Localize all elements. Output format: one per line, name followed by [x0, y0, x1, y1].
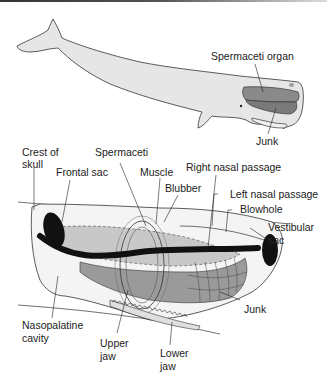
whole-whale-illustration — [17, 19, 303, 134]
whale-body — [17, 19, 303, 129]
label-crest-of-skull-2: skull — [22, 158, 43, 170]
label-nasopalatine-cavity-2: cavity — [22, 332, 49, 344]
label-frontal-sac: Frontal sac — [56, 166, 108, 178]
label-crest-of-skull-1: Crest of — [22, 146, 59, 158]
label-vestibular-sac-1: Vestibular — [268, 221, 314, 233]
label-muscle: Muscle — [140, 166, 173, 178]
label-spermaceti-organ: Spermaceti organ — [211, 50, 294, 62]
label-lower-jaw-2: jaw — [160, 360, 176, 372]
label-blowhole: Blowhole — [240, 203, 283, 215]
label-blubber: Blubber — [165, 182, 201, 194]
label-lower-jaw-1: Lower — [160, 347, 189, 359]
whale-eye — [240, 105, 242, 107]
label-junk-top: Junk — [256, 135, 278, 147]
label-right-nasal-passage: Right nasal passage — [186, 161, 281, 173]
label-vestibular-sac-2: sac — [268, 234, 284, 246]
label-spermaceti: Spermaceti — [95, 146, 148, 158]
label-junk-bottom: Junk — [244, 303, 266, 315]
label-nasopalatine-cavity-1: Nasopalatine — [22, 319, 83, 331]
label-upper-jaw-1: Upper — [100, 337, 129, 349]
label-left-nasal-passage: Left nasal passage — [230, 188, 318, 200]
label-upper-jaw-2: jaw — [100, 350, 116, 362]
